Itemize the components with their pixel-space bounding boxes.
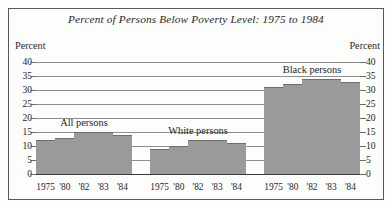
x-tick-label: '83	[208, 180, 227, 194]
y-tick-mark	[30, 90, 36, 91]
y-tick-label: 25	[12, 99, 32, 109]
baseline-axis	[36, 174, 360, 175]
y-tick-mark	[30, 146, 36, 147]
x-tick-label: '80	[55, 180, 74, 194]
y-tick-mark	[360, 160, 366, 161]
y-axis-caption-left: Percent	[15, 40, 46, 51]
y-tick-label: 0	[366, 169, 386, 179]
y-tick-label: 10	[366, 141, 386, 151]
bar[interactable]	[55, 138, 74, 174]
bar[interactable]	[322, 79, 341, 174]
bar[interactable]	[283, 84, 302, 174]
bar[interactable]	[36, 140, 55, 174]
bar[interactable]	[94, 132, 113, 174]
bar[interactable]	[188, 140, 207, 174]
y-tick-label: 10	[12, 141, 32, 151]
y-tick-label: 30	[366, 85, 386, 95]
x-label-row: 1975'80'82'83'84	[150, 180, 246, 194]
y-tick-mark	[360, 76, 366, 77]
y-tick-label: 0	[12, 169, 32, 179]
bar[interactable]	[150, 149, 169, 174]
bar-group: White persons	[150, 62, 246, 174]
x-tick-label: '84	[113, 180, 132, 194]
bar[interactable]	[113, 135, 132, 174]
y-tick-mark	[30, 160, 36, 161]
x-label-row: 1975'80'82'83'84	[264, 180, 360, 194]
x-tick-label: '82	[188, 180, 207, 194]
y-tick-mark	[360, 104, 366, 105]
y-tick-label: 25	[366, 99, 386, 109]
y-tick-label: 40	[12, 57, 32, 67]
bars	[150, 62, 246, 174]
y-tick-label: 5	[366, 155, 386, 165]
x-tick-label: '80	[283, 180, 302, 194]
x-tick-label: '83	[94, 180, 113, 194]
x-tick-label: 1975	[264, 180, 283, 194]
y-tick-mark	[30, 132, 36, 133]
y-tick-label: 30	[12, 85, 32, 95]
y-tick-label: 15	[366, 127, 386, 137]
x-tick-label: '84	[341, 180, 360, 194]
y-tick-label: 20	[12, 113, 32, 123]
plot-area: All personsWhite personsBlack persons	[36, 62, 360, 174]
bar-group: All persons	[36, 62, 132, 174]
y-tick-label: 20	[366, 113, 386, 123]
chart-title: Percent of Persons Below Poverty Level: …	[8, 13, 384, 25]
x-tick-label: 1975	[36, 180, 55, 194]
bar[interactable]	[74, 132, 93, 174]
x-tick-label: '82	[74, 180, 93, 194]
y-axis-caption-right: Percent	[349, 40, 380, 51]
bar[interactable]	[341, 82, 360, 174]
bars	[264, 62, 360, 174]
y-tick-mark	[360, 90, 366, 91]
bar[interactable]	[169, 146, 188, 174]
y-tick-mark	[360, 132, 366, 133]
x-tick-label: '82	[302, 180, 321, 194]
y-tick-label: 35	[366, 71, 386, 81]
y-tick-mark	[30, 174, 36, 175]
group-label: All persons	[36, 117, 132, 128]
y-tick-mark	[360, 62, 366, 63]
group-label: White persons	[150, 125, 246, 136]
y-tick-label: 35	[12, 71, 32, 81]
x-label-row: 1975'80'82'83'84	[36, 180, 132, 194]
x-tick-label: '84	[227, 180, 246, 194]
y-tick-mark	[360, 146, 366, 147]
x-tick-label: 1975	[150, 180, 169, 194]
y-tick-mark	[30, 118, 36, 119]
y-tick-mark	[360, 174, 366, 175]
y-tick-mark	[360, 118, 366, 119]
x-tick-label: '80	[169, 180, 188, 194]
y-tick-label: 40	[366, 57, 386, 67]
y-tick-mark	[30, 62, 36, 63]
x-tick-label: '83	[322, 180, 341, 194]
bar-group: Black persons	[264, 62, 360, 174]
y-tick-mark	[30, 76, 36, 77]
bar[interactable]	[302, 79, 321, 174]
y-tick-mark	[30, 104, 36, 105]
y-tick-label: 5	[12, 155, 32, 165]
poverty-bar-chart-figure: Percent of Persons Below Poverty Level: …	[0, 0, 392, 208]
bar[interactable]	[208, 140, 227, 174]
group-label: Black persons	[264, 64, 360, 75]
y-tick-label: 15	[12, 127, 32, 137]
bar[interactable]	[264, 87, 283, 174]
bar[interactable]	[227, 143, 246, 174]
